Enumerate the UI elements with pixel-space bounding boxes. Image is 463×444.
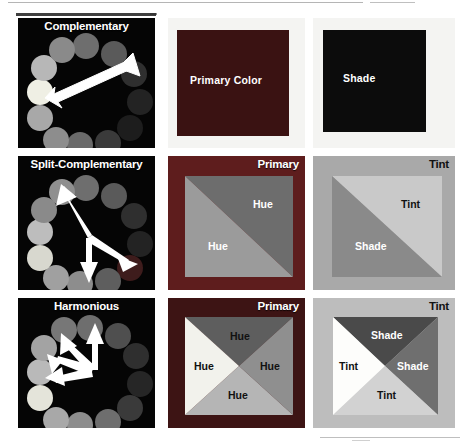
wheel-arrows-complementary — [18, 18, 155, 148]
panel-title-primary-row2: Primary — [258, 158, 299, 170]
color-theory-grid: Complementary Primary — [0, 0, 463, 444]
wheel-arrows-harmonious — [18, 298, 155, 428]
primary-split-label-lower: Hue — [208, 240, 228, 252]
panel-split-complementary[interactable]: Split-Complementary — [18, 156, 155, 290]
tint-split-label-lower: Shade — [355, 240, 387, 252]
wheel-arrows-split-complementary — [18, 156, 155, 290]
primary-quad-label-top: Hue — [230, 330, 250, 342]
primary-quad-label-right: Hue — [260, 360, 280, 372]
tint-quad-label-right: Shade — [397, 360, 429, 372]
panel-tint-quad[interactable]: Tint Shade Shade Tint Tint — [313, 298, 455, 428]
panel-title-complementary: Complementary — [44, 20, 128, 32]
panel-title-split-complementary: Split-Complementary — [31, 158, 143, 170]
primary-quad-label-bottom: Hue — [228, 389, 248, 401]
primary-color-square: Primary Color — [177, 30, 289, 136]
panel-title-tint-row2: Tint — [429, 158, 449, 170]
panel-primary-flat[interactable]: Primary Primary Color — [168, 18, 305, 148]
primary-split-square — [185, 176, 293, 277]
shade-color-square: Shade — [323, 30, 426, 132]
panel-tint-flat[interactable]: Tint Shade — [313, 18, 455, 148]
primary-split-label-upper: Hue — [253, 198, 273, 210]
primary-color-label: Primary Color — [190, 74, 262, 86]
tint-split-label-upper: Tint — [401, 198, 420, 210]
panel-primary-split[interactable]: Primary Hue Hue — [168, 156, 305, 290]
panel-complementary[interactable]: Complementary — [18, 18, 155, 148]
panel-primary-quad[interactable]: Primary Hue Hue Hue Hue — [168, 298, 305, 428]
tint-quad-label-top: Shade — [371, 329, 403, 341]
tint-quad-label-bottom: Tint — [377, 389, 396, 401]
panel-title-tint-row3: Tint — [429, 300, 449, 312]
panel-title-harmonious: Harmonious — [54, 300, 119, 312]
shade-color-label: Shade — [343, 72, 376, 84]
tint-split-square — [332, 176, 442, 277]
panel-harmonious[interactable]: Harmonious — [18, 298, 155, 428]
tint-quad-label-left: Tint — [339, 360, 358, 372]
primary-quad-label-left: Hue — [194, 360, 214, 372]
panel-title-primary-row3: Primary — [258, 300, 299, 312]
panel-tint-split[interactable]: Tint Tint Shade — [313, 156, 455, 290]
